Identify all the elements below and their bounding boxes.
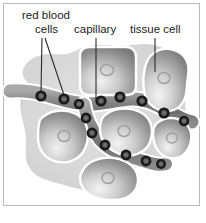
red-blood-cell <box>179 116 189 126</box>
red-blood-cell <box>158 107 169 118</box>
labels: red blood cells capillary tissue cell <box>22 9 181 35</box>
label-red-blood-cells-line2: cells <box>35 23 58 35</box>
red-blood-cell <box>136 95 147 106</box>
red-blood-cell <box>81 113 92 124</box>
figure-container: red blood cells capillary tissue cell <box>0 0 206 223</box>
tissue-cell-mid-left <box>38 111 88 163</box>
label-tissue-cell: tissue cell <box>130 23 181 35</box>
capillary-tissue-diagram: red blood cells capillary tissue cell <box>0 0 206 223</box>
label-capillary: capillary <box>74 23 116 35</box>
red-blood-cell <box>74 99 84 109</box>
red-blood-cell <box>121 150 132 161</box>
red-blood-cell <box>156 159 166 169</box>
red-blood-cell <box>35 90 46 101</box>
red-blood-cell <box>95 95 106 106</box>
red-blood-cell <box>58 93 69 104</box>
tissue-cell-top-center <box>80 47 136 95</box>
red-blood-cell <box>100 140 111 151</box>
label-red-blood-cells-line1: red blood <box>22 9 70 21</box>
tissue-cell-bottom-center <box>80 158 138 200</box>
red-blood-cell <box>114 91 125 102</box>
red-blood-cell <box>141 156 152 167</box>
tissue-cell-top-right <box>143 49 188 111</box>
red-blood-cell <box>87 128 98 139</box>
